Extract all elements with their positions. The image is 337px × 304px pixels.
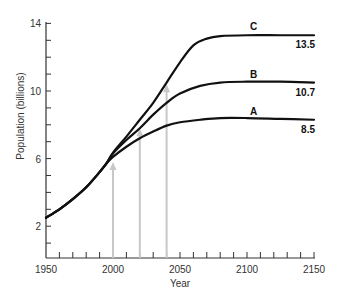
arrow-annotations	[110, 84, 171, 258]
end-value-label-a: 8.5	[301, 124, 315, 135]
series-line-b	[46, 82, 314, 218]
series-line-c	[46, 35, 314, 218]
y-tick-label: 6	[35, 154, 41, 165]
end-value-label-c: 13.5	[296, 39, 316, 50]
y-tick-label: 2	[35, 221, 41, 232]
series-line-a	[46, 118, 314, 218]
series-label-a: A	[250, 106, 257, 117]
population-chart: 261014 19502000205021002150 A8.5B10.7C13…	[0, 0, 337, 304]
x-tick-label: 2100	[236, 264, 259, 275]
series-lines	[46, 35, 314, 218]
series-label-b: B	[250, 69, 257, 80]
series-label-c: C	[250, 21, 257, 32]
x-tick-label: 2150	[303, 264, 326, 275]
x-axis-title: Year	[170, 278, 191, 289]
x-tick-label: 2050	[169, 264, 192, 275]
arrow-up-icon	[110, 162, 117, 170]
x-tick-label: 1950	[35, 264, 58, 275]
axes: 261014 19502000205021002150	[30, 18, 326, 275]
end-value-label-b: 10.7	[296, 87, 316, 98]
y-axis-title: Population (billions)	[15, 72, 26, 159]
y-ticks: 261014	[30, 18, 51, 243]
y-tick-label: 10	[30, 86, 42, 97]
x-tick-label: 2000	[102, 264, 125, 275]
x-ticks: 19502000205021002150	[35, 252, 326, 275]
y-tick-label: 14	[30, 18, 42, 29]
